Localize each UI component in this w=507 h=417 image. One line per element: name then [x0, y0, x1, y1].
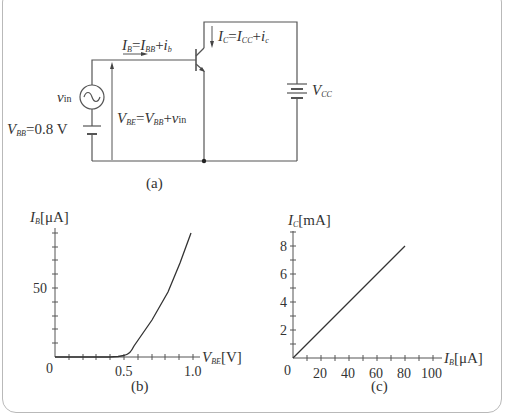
plot-b-xtick-0-5: 0.5: [115, 364, 133, 379]
circuit-diagram: IB=IBB+ib IC=ICC+ic vin VBB=0.8 V VBE=VB…: [7, 22, 333, 192]
plot-c-ytick-8: 8: [280, 239, 287, 254]
vin-label: vin: [57, 89, 71, 105]
plot-c-xtick-20: 20: [313, 366, 327, 381]
transistor-collector-leg: [196, 48, 204, 56]
plot-b-ylabel: IB[μA]: [29, 209, 69, 226]
caption-c: (c): [371, 378, 388, 395]
plot-c-xtick-100: 100: [421, 366, 442, 381]
vcc-label: VCC: [312, 82, 333, 99]
sine-wave-icon: [84, 93, 100, 102]
vbe-label: VBE=VBB+vin: [117, 110, 186, 127]
plot-c-ytick-4: 4: [280, 295, 287, 310]
caption-a: (a): [146, 175, 163, 192]
plot-c-origin: 0: [284, 363, 291, 378]
base-wire: [92, 60, 196, 85]
vbe-arrowhead-icon: [110, 62, 114, 69]
plot-b: IB[μA] VBE[V] 0 0.5 1.0 50 (b): [29, 209, 242, 395]
figure-svg: IB=IBB+ib IC=ICC+ic vin VBB=0.8 V VBE=VB…: [0, 0, 507, 417]
plot-b-xlabel: VBE[V]: [202, 349, 242, 366]
plot-c-xtick-80: 80: [397, 366, 411, 381]
plot-c-ytick-6: 6: [280, 267, 287, 282]
vbb-label: VBB=0.8 V: [7, 121, 68, 138]
plot-c-ytick-2: 2: [280, 323, 287, 338]
plot-b-xtick-1-0: 1.0: [184, 364, 202, 379]
plot-c-xlabel: IB[μA]: [443, 350, 483, 367]
plot-b-curve: [55, 233, 191, 357]
plot-c: IC[mA] IB[μA] 0 20 40 60 80 100 2 4 6 8 …: [280, 212, 483, 395]
plot-c-xtick-40: 40: [341, 366, 355, 381]
ib-label: IB=IBB+ib: [121, 37, 172, 54]
caption-b: (b): [131, 378, 149, 395]
ic-arrowhead-icon: [210, 41, 214, 48]
ic-label: IC=ICC+ic: [217, 28, 269, 45]
plot-b-ytick-50: 50: [33, 281, 47, 296]
junction-dot: [202, 159, 206, 163]
plot-b-origin: 0: [46, 361, 53, 376]
plot-c-ylabel: IC[mA]: [287, 212, 331, 229]
plot-c-line: [293, 246, 405, 358]
